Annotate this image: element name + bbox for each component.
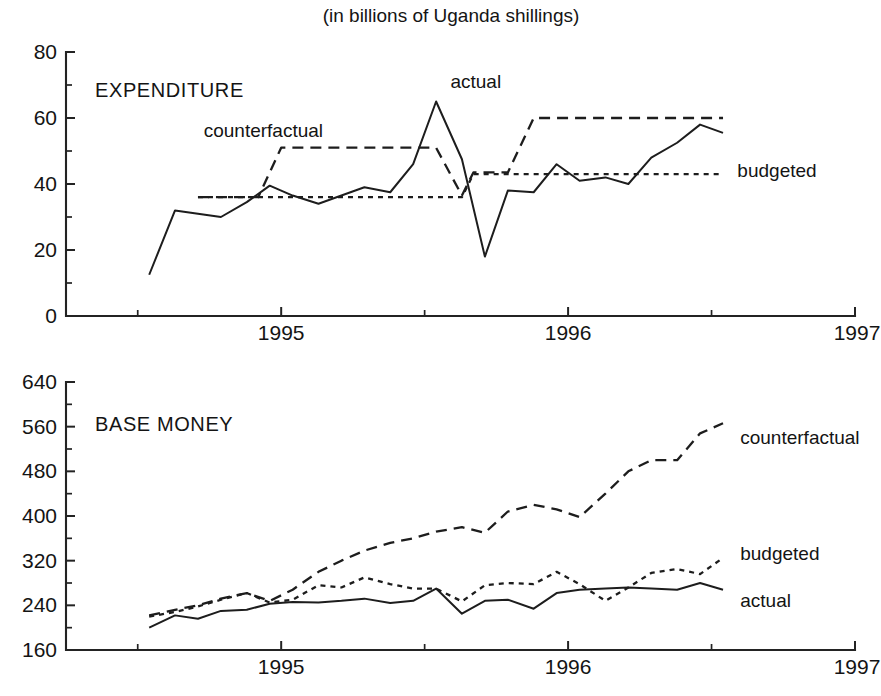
x-tick-label: 1995 bbox=[258, 655, 305, 678]
series-line-counterfactual bbox=[149, 423, 723, 615]
y-tick-label: 40 bbox=[34, 172, 57, 195]
y-tick-label: 80 bbox=[34, 40, 57, 63]
series-label-actual: actual bbox=[450, 71, 501, 92]
figure-root: (in billions of Uganda shillings)0204060… bbox=[0, 0, 881, 696]
y-tick-label: 400 bbox=[22, 504, 57, 527]
y-tick-label: 480 bbox=[22, 459, 57, 482]
y-tick-label: 240 bbox=[22, 593, 57, 616]
x-tick-label: 1997 bbox=[834, 655, 881, 678]
y-tick-label: 20 bbox=[34, 238, 57, 261]
series-label-budgeted: budgeted bbox=[740, 543, 819, 564]
panel-title-1: BASE MONEY bbox=[95, 413, 233, 435]
series-label-counterfactual: counterfactual bbox=[740, 427, 859, 448]
series-line-budgeted bbox=[198, 174, 723, 197]
series-label-actual: actual bbox=[740, 590, 791, 611]
y-tick-label: 320 bbox=[22, 549, 57, 572]
economic-charts-figure: (in billions of Uganda shillings)0204060… bbox=[0, 0, 881, 696]
y-tick-label: 60 bbox=[34, 106, 57, 129]
x-tick-label: 1997 bbox=[834, 321, 881, 344]
series-label-budgeted: budgeted bbox=[737, 160, 816, 181]
y-tick-label: 160 bbox=[22, 638, 57, 661]
series-line-actual bbox=[149, 583, 723, 628]
y-tick-label: 0 bbox=[45, 304, 57, 327]
x-tick-label: 1995 bbox=[258, 321, 305, 344]
chart-panel-base-money: 160240320400480560640199519961997BASE MO… bbox=[22, 370, 880, 678]
figure-title: (in billions of Uganda shillings) bbox=[323, 5, 580, 26]
y-tick-label: 640 bbox=[22, 370, 57, 393]
x-tick-label: 1996 bbox=[545, 655, 592, 678]
y-tick-label: 560 bbox=[22, 415, 57, 438]
series-label-counterfactual: counterfactual bbox=[204, 120, 323, 141]
chart-panel-expenditure: 020406080199519961997EXPENDITUREactualco… bbox=[34, 40, 881, 344]
x-tick-label: 1996 bbox=[545, 321, 592, 344]
panel-title-0: EXPENDITURE bbox=[95, 79, 244, 101]
